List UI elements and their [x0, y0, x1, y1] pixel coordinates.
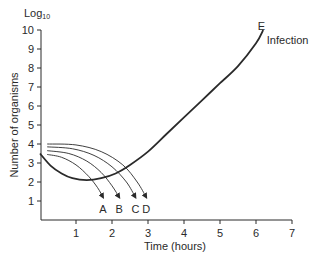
axes	[41, 30, 292, 220]
y-tick-label: 9	[28, 43, 34, 55]
end-label-e: E	[258, 20, 265, 32]
y-tick-label: 4	[28, 138, 34, 150]
unit-label: Log10	[24, 7, 50, 20]
chart: 12345678910 1234567 Log10 Number of orga…	[0, 0, 313, 259]
labels-group: Log10 Number of organisms Time (hours) A…	[8, 7, 308, 252]
x-tick-label: 5	[217, 227, 223, 239]
x-tick-label: 4	[181, 227, 187, 239]
y-tick-label: 3	[28, 157, 34, 169]
y-tick-label: 6	[28, 100, 34, 112]
y-tick-label: 8	[28, 62, 34, 74]
y-axis-label: Number of organisms	[8, 72, 20, 178]
x-ticks: 1234567	[73, 220, 295, 239]
y-tick-label: 5	[28, 119, 34, 131]
x-tick-label: 2	[109, 227, 115, 239]
y-tick-label: 7	[28, 81, 34, 93]
y-tick-label: 1	[28, 195, 34, 207]
arrow-label-a: A	[99, 203, 107, 215]
series-line-a	[47, 154, 103, 197]
x-tick-label: 7	[289, 227, 295, 239]
series-line-b	[47, 151, 119, 198]
arrow-label-c: C	[131, 203, 139, 215]
x-tick-label: 1	[73, 227, 79, 239]
arrow-label-d: D	[142, 203, 150, 215]
x-tick-label: 6	[253, 227, 259, 239]
y-ticks: 12345678910	[22, 24, 41, 207]
x-axis-label: Time (hours)	[144, 240, 206, 252]
y-tick-label: 10	[22, 24, 34, 36]
infection-label: Infection	[267, 34, 309, 46]
arrow-label-b: B	[116, 203, 123, 215]
y-tick-label: 2	[28, 176, 34, 188]
x-tick-label: 3	[145, 227, 151, 239]
series-line-e	[40, 30, 263, 180]
series-group	[40, 30, 263, 197]
